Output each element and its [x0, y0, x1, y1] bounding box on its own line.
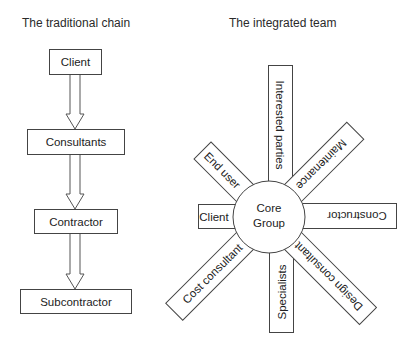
- chain-label-subcontractor: Subcontractor: [40, 296, 112, 308]
- spoke-label-cost-consultant: Cost consultant: [180, 241, 245, 306]
- core-group: Core Group: [233, 181, 305, 253]
- chain-box-subcontractor: Subcontractor: [21, 290, 132, 314]
- arrow-contractor-to-subcontractor: [66, 233, 84, 289]
- spoke-client: Client: [199, 205, 237, 229]
- integrated-team: The integrated team Interested parties S…: [166, 16, 397, 333]
- spoke-design-consultant: Design consultant: [283, 231, 376, 324]
- spoke-specialists: Specialists: [270, 248, 294, 333]
- arrow-consultants-to-contractor: [66, 154, 84, 209]
- chain-label-contractor: Contractor: [49, 216, 103, 228]
- chain-box-contractor: Contractor: [35, 210, 118, 234]
- spoke-label-client: Client: [199, 211, 229, 223]
- spoke-label-design-consultant: Design consultant: [291, 239, 365, 313]
- spoke-cost-consultant: Cost consultant: [166, 231, 255, 320]
- core-label-line1: Core: [257, 202, 282, 214]
- traditional-chain-title: The traditional chain: [22, 16, 130, 30]
- spoke-maintenance: Maintenance: [283, 122, 364, 203]
- spoke-interested-parties: Interested parties: [269, 66, 293, 186]
- traditional-chain: The traditional chain Client Consultants…: [21, 16, 132, 314]
- spoke-label-maintenance: Maintenance: [294, 137, 349, 192]
- diagram-canvas: The traditional chain Client Consultants…: [0, 0, 413, 352]
- chain-box-consultants: Consultants: [28, 130, 125, 155]
- core-label-line2: Group: [253, 217, 285, 229]
- spoke-constructor: Constructor: [302, 204, 397, 229]
- chain-label-client: Client: [61, 56, 91, 68]
- spoke-label-interested-parties: Interested parties: [274, 81, 286, 170]
- spoke-label-specialists: Specialists: [276, 264, 288, 319]
- chain-label-consultants: Consultants: [46, 136, 107, 148]
- arrow-client-to-consultants: [66, 74, 84, 129]
- spoke-label-constructor: Constructor: [327, 210, 387, 222]
- chain-box-client: Client: [50, 50, 102, 75]
- integrated-team-title: The integrated team: [229, 16, 336, 30]
